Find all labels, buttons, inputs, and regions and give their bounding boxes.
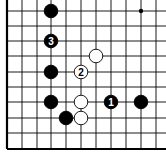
black-stone-1: 1: [104, 95, 118, 109]
star-points: [139, 9, 143, 13]
go-board: 321: [0, 0, 166, 159]
white-stone: [74, 111, 88, 125]
white-stone-2: 2: [74, 65, 88, 79]
black-stone: [59, 111, 73, 125]
white-stone: [89, 49, 103, 63]
star-point: [139, 9, 143, 13]
black-stone: [44, 65, 58, 79]
white-stone: [74, 95, 88, 109]
black-stone-3: 3: [44, 34, 58, 48]
move-number: 2: [78, 67, 84, 78]
black-stone: [134, 95, 148, 109]
black-stone: [44, 95, 58, 109]
move-number: 1: [108, 97, 114, 108]
move-number: 3: [48, 36, 54, 47]
black-stone: [44, 4, 58, 18]
